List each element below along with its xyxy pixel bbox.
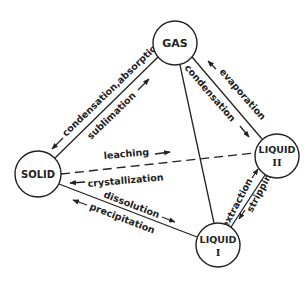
label-crystallization: crystallization [87, 171, 164, 189]
node-solid: SOLID [15, 151, 61, 197]
edge-solid-liquid1 [59, 184, 197, 237]
node-liquid1-numeral: I [216, 247, 221, 258]
node-gas: GAS [153, 21, 197, 65]
arrow-icon [155, 152, 170, 154]
node-liquid2-label: LIQUID [259, 144, 296, 155]
node-gas-label: GAS [162, 37, 188, 50]
phase-transfer-diagram: condensation,absorption sublimation cond… [0, 0, 308, 293]
label-leaching: leaching [103, 146, 149, 161]
label-sublimation: sublimation [85, 90, 138, 142]
node-liquid1-label: LIQUID [200, 234, 237, 245]
arrow-icon [138, 79, 149, 90]
node-liquid2-numeral: II [272, 157, 282, 168]
arrow-icon [162, 217, 175, 222]
arrows [52, 61, 258, 222]
edge-solid-liquid2 [61, 153, 255, 174]
arrow-icon [52, 138, 63, 149]
label-condensation-absorption: condensation,absorption [60, 38, 164, 139]
arrow-icon [252, 169, 258, 178]
arrow-icon [240, 126, 249, 137]
node-liquid2: LIQUID II [255, 134, 299, 178]
node-solid-label: SOLID [21, 169, 55, 180]
node-liquid1: LIQUID I [196, 223, 240, 267]
edge-gas-solid [55, 57, 158, 158]
arrow-icon [70, 182, 85, 183]
arrow-icon [208, 61, 216, 69]
arrow-icon [73, 200, 87, 205]
